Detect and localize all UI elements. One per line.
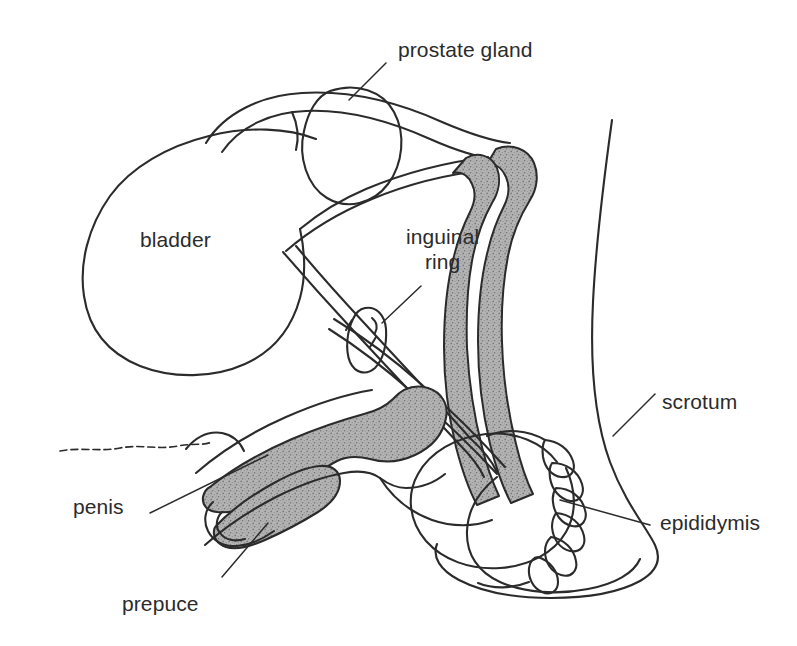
inguinal-ring-inner-mark xyxy=(372,318,377,333)
prostate-outline xyxy=(302,88,401,205)
label-penis: penis xyxy=(73,495,124,520)
label-inguinal-ring: inguinal ring xyxy=(406,225,479,275)
label-prepuce: prepuce xyxy=(122,592,199,617)
leader-scrotum xyxy=(613,394,655,436)
label-bladder: bladder xyxy=(140,228,211,253)
penile-root-curve xyxy=(186,433,244,451)
label-epididymis: epididymis xyxy=(660,511,760,536)
epididymis-lobes xyxy=(529,440,586,593)
anatomy-figure: prostate gland bladder inguinal ring scr… xyxy=(0,0,797,646)
label-inguinal-line2: ring xyxy=(425,250,460,273)
scrotum-outer-wall xyxy=(436,120,658,598)
leader-prostate xyxy=(349,63,386,100)
upper-arch-inner xyxy=(222,111,500,160)
label-prostate-gland: prostate gland xyxy=(398,38,533,63)
leader-inguinal xyxy=(382,286,421,323)
label-scrotum: scrotum xyxy=(662,390,737,415)
upper-arch-cap xyxy=(292,112,298,150)
upper-arch-outer xyxy=(206,93,510,143)
label-inguinal-line1: inguinal xyxy=(406,225,479,248)
anatomy-drawing xyxy=(0,0,797,646)
